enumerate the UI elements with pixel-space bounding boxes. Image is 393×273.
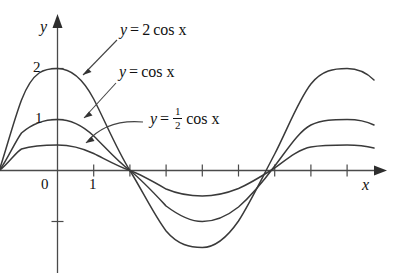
eq-y: y xyxy=(120,22,127,38)
eq-equals: = xyxy=(160,111,169,127)
annotation-2cos-label: y = 2 cos x xyxy=(120,22,186,38)
eq-y: y xyxy=(150,111,157,127)
leader-2cos xyxy=(83,40,117,75)
eq-equals: = xyxy=(130,22,139,38)
eq-cos-x: cos x xyxy=(153,22,186,38)
fraction-denominator: 2 xyxy=(174,120,182,131)
fraction-numerator: 1 xyxy=(174,106,182,117)
origin-label: 0 xyxy=(41,176,49,193)
y-tick-label-1: 1 xyxy=(35,110,43,127)
annotation-half-cos-label: y = 1 2 cos x xyxy=(150,106,219,131)
x-axis-label: x xyxy=(362,176,369,194)
x-tick-label-1: 1 xyxy=(89,176,97,193)
graph-canvas xyxy=(0,0,393,273)
y-tick-label-2: 2 xyxy=(33,59,41,76)
y-axis-arrowhead xyxy=(53,14,63,28)
eq-cos-x: cos x xyxy=(186,111,219,127)
curve-2cos xyxy=(0,69,374,248)
y-axis-label: y xyxy=(40,18,47,36)
eq-cos-x: cos x xyxy=(141,64,174,80)
x-axis-arrowhead xyxy=(374,166,387,176)
eq-y: y xyxy=(119,64,126,80)
eq-coefficient-two: 2 xyxy=(142,22,150,38)
leader-half-cos xyxy=(86,122,143,143)
annotation-cos-label: y = cos x xyxy=(119,64,174,80)
fraction-one-half: 1 2 xyxy=(173,106,182,131)
cosine-amplitude-graph: y x 2 1 0 1 y = 2 cos x y = cos x y = 1 … xyxy=(0,0,393,273)
eq-equals: = xyxy=(129,64,138,80)
